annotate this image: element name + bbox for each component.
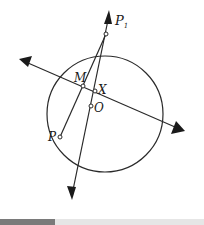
label-x: X — [97, 83, 107, 97]
point-o — [89, 104, 93, 108]
point-p1 — [104, 32, 108, 36]
label-p1: P1 — [114, 13, 128, 30]
progress-bar — [0, 219, 204, 225]
point-p — [58, 135, 62, 139]
arrowhead-up-icon — [104, 10, 112, 24]
arrowhead-left-icon — [19, 56, 32, 67]
progress-bar-fill — [0, 219, 55, 225]
point-x — [93, 89, 97, 93]
label-p: P — [47, 130, 57, 144]
geometry-diagram: P1 M X O P — [0, 0, 204, 205]
label-m: M — [73, 71, 87, 85]
label-o: O — [94, 101, 104, 115]
arrowhead-right-icon — [171, 121, 185, 134]
arrowhead-down-icon — [67, 186, 76, 200]
